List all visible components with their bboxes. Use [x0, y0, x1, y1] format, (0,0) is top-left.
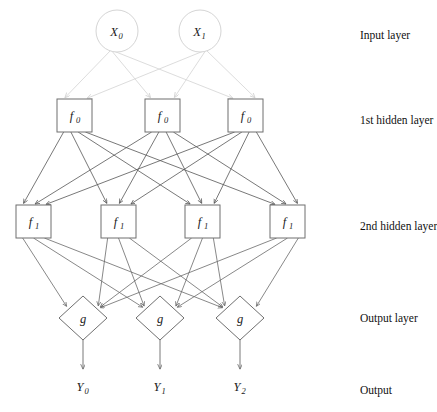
output-value-labels: Y0Y1Y2	[77, 380, 247, 396]
input-layer-nodes: X0X1	[96, 10, 221, 52]
layer-annotation-3: Output layer	[360, 312, 418, 325]
hidden1-node-1	[145, 99, 180, 132]
svg-text:2: 2	[242, 386, 247, 396]
edge-input0-hidden1-0	[65, 50, 111, 98]
edge-hidden2-2-output-2	[213, 238, 224, 306]
svg-text:1: 1	[120, 221, 124, 231]
edge-hidden1-0-hidden2-3	[85, 132, 274, 204]
layer-annotation-4: Output	[360, 384, 393, 397]
edge-hidden2-0-output-0	[23, 238, 67, 306]
edge-hidden1-2-hidden2-3	[256, 132, 297, 203]
svg-text:g: g	[157, 312, 163, 326]
output-node-label-1: g	[157, 312, 163, 326]
edge-hidden2-3-output-1	[177, 238, 287, 307]
svg-text:1: 1	[204, 221, 208, 231]
svg-text:1: 1	[162, 386, 166, 396]
edge-hidden2-1-output-0	[98, 238, 107, 306]
svg-text:g: g	[237, 312, 243, 326]
svg-text:g: g	[80, 312, 86, 326]
edge-hidden1-0-hidden2-0	[24, 132, 64, 203]
neural-network-diagram: X0X1 f0f0f0 f1f1f1f1 ggg Y0Y1Y2 Input la…	[0, 0, 437, 412]
output-node-label-0: g	[80, 312, 86, 326]
edge-hidden1-2-hidden2-0	[46, 132, 234, 204]
edges-input-to-hidden1	[65, 50, 255, 98]
layer-annotation-0: Input layer	[360, 29, 410, 42]
edge-input1-hidden1-1	[174, 50, 206, 97]
hidden1-node-0	[57, 99, 92, 132]
hidden2-node-3	[270, 205, 305, 238]
edge-input0-hidden1-2	[111, 50, 233, 98]
layer-annotations: Input layer1st hidden layer2nd hidden la…	[360, 29, 437, 397]
svg-text:1: 1	[289, 221, 293, 231]
hidden2-node-0	[16, 205, 51, 238]
svg-text:1: 1	[202, 31, 206, 41]
output-layer-nodes: ggg	[59, 296, 264, 340]
edge-hidden2-1-output-2	[129, 238, 222, 307]
hidden2-layer-nodes: f1f1f1f1	[16, 205, 305, 238]
output-value-1: Y1	[154, 380, 166, 396]
layer-annotation-2: 2nd hidden layer	[360, 220, 437, 233]
edges-output-to-result	[83, 340, 240, 369]
hidden1-layer-nodes: f0f0f0	[57, 99, 263, 132]
network-svg: X0X1 f0f0f0 f1f1f1f1 ggg Y0Y1Y2 Input la…	[0, 0, 437, 412]
svg-text:0: 0	[85, 386, 90, 396]
edge-hidden2-2-output-1	[176, 238, 203, 306]
hidden2-node-2	[185, 205, 220, 238]
edge-hidden1-2-hidden2-1	[131, 132, 242, 204]
hidden1-node-2	[228, 99, 263, 132]
layer-annotation-1: 1st hidden layer	[360, 114, 434, 127]
output-value-2: Y2	[234, 380, 247, 396]
hidden2-node-1	[101, 205, 136, 238]
edge-input1-hidden1-0	[87, 50, 206, 98]
edges-hidden1-to-hidden2	[24, 132, 298, 204]
edge-input0-hidden1-1	[111, 50, 150, 97]
edge-hidden2-3-output-0	[101, 238, 277, 308]
edge-hidden2-3-output-2	[256, 238, 298, 306]
edge-hidden1-1-hidden2-1	[119, 132, 158, 203]
output-node-label-2: g	[237, 312, 243, 326]
svg-text:1: 1	[35, 221, 39, 231]
edge-hidden2-0-output-1	[34, 238, 143, 307]
edge-hidden2-2-output-0	[100, 238, 191, 307]
edge-hidden2-0-output-2	[44, 238, 222, 308]
edge-hidden1-1-hidden2-3	[173, 132, 285, 204]
output-value-0: Y0	[77, 380, 90, 396]
edge-hidden1-1-hidden2-2	[166, 132, 201, 203]
